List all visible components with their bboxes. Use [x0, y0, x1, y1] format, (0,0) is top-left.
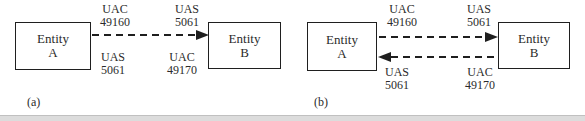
panel-a-dashed-arrow-a-to-b [92, 34, 197, 36]
panel-b-caption: (b) [314, 95, 328, 110]
entity-name-line: Entity [518, 32, 550, 46]
panel-a-bottom-right-port-label: UAC 49170 [155, 51, 209, 77]
sip-entities-ports-figure: Entity A Entity B UAC 49160 UAS 5061 UAS… [0, 0, 585, 121]
panel-b-dashed-arrow-b-to-a [391, 56, 498, 58]
port-number: 5061 [86, 64, 140, 77]
panel-b-entity-b-box: Entity B [498, 22, 570, 69]
panel-b-bottom-right-port-label: UAC 49170 [453, 66, 507, 92]
port-number: 49170 [155, 64, 209, 77]
entity-name-line: B [530, 46, 539, 60]
port-number: 49170 [453, 79, 507, 92]
port-number: 5061 [370, 79, 424, 92]
page-edge-divider [0, 115, 585, 121]
panel-b-dashed-arrow-a-to-b [379, 36, 486, 38]
panel-b-entity-a-box: Entity A [307, 22, 377, 71]
port-number: 49160 [375, 16, 429, 29]
panel-a-entity-b-box: Entity B [208, 22, 281, 69]
panel-a-bottom-left-port-label: UAS 5061 [86, 51, 140, 77]
panel-a-top-right-port-label: UAS 5061 [160, 3, 214, 29]
arrow-right-icon [196, 30, 209, 40]
panel-b-top-right-port-label: UAS 5061 [452, 3, 506, 29]
panel-a-top-left-port-label: UAC 49160 [88, 3, 142, 29]
port-number: 49160 [88, 16, 142, 29]
arrow-left-icon [378, 52, 391, 62]
entity-name-line: B [240, 46, 249, 60]
entity-name-line: Entity [37, 32, 69, 46]
panel-a-caption: (a) [27, 95, 40, 110]
entity-name-line: A [337, 47, 346, 61]
panel-b-top-left-port-label: UAC 49160 [375, 3, 429, 29]
entity-name-line: Entity [326, 33, 358, 47]
entity-name-line: Entity [229, 32, 261, 46]
panel-a-entity-a-box: Entity A [15, 22, 91, 70]
panel-b-bottom-left-port-label: UAS 5061 [370, 66, 424, 92]
entity-name-line: A [48, 46, 57, 60]
port-number: 5061 [160, 16, 214, 29]
port-number: 5061 [452, 16, 506, 29]
arrow-right-icon [485, 32, 498, 42]
